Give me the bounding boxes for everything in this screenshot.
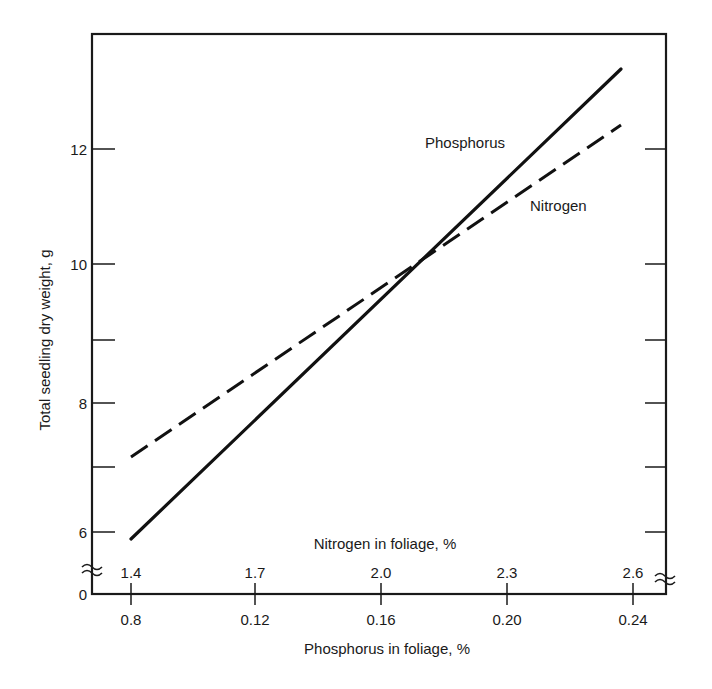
- plot-frame: [92, 34, 666, 594]
- y-axis-title: Total seedling dry weight, g: [36, 250, 53, 431]
- p-tick-label-0.08: 0.8: [121, 611, 142, 628]
- n-tick-label-2.0: 2.0: [371, 564, 392, 581]
- series-phosphorus-line: [131, 69, 621, 539]
- x-axis-title: Phosphorus in foliage, %: [304, 640, 470, 657]
- y-tick-label-6: 6: [79, 524, 87, 541]
- chart: 12 10 8 6 0 Total seedling dry weight, g…: [0, 0, 712, 689]
- n-tick-label-1.7: 1.7: [245, 564, 266, 581]
- nitrogen-axis-title: Nitrogen in foliage, %: [314, 535, 457, 552]
- p-tick-label-0.20: 0.20: [492, 611, 521, 628]
- n-tick-label-2.6: 2.6: [623, 564, 644, 581]
- p-tick-label-0.12: 0.12: [240, 611, 269, 628]
- n-tick-label-2.3: 2.3: [497, 564, 518, 581]
- nitrogen-series-label: Nitrogen: [530, 197, 587, 214]
- phosphorus-series-label: Phosphorus: [425, 134, 505, 151]
- n-tick-label-1.4: 1.4: [121, 564, 142, 581]
- y-tick-label-8: 8: [79, 395, 87, 412]
- series-nitrogen-line: [131, 125, 621, 457]
- p-tick-label-0.24: 0.24: [618, 611, 647, 628]
- y-ticks-right: [645, 149, 666, 532]
- y-tick-label-12: 12: [70, 141, 87, 158]
- p-tick-label-0.16: 0.16: [366, 611, 395, 628]
- y-ticks-left: [92, 149, 115, 532]
- y-tick-label-0: 0: [79, 586, 87, 603]
- y-tick-label-10: 10: [70, 256, 87, 273]
